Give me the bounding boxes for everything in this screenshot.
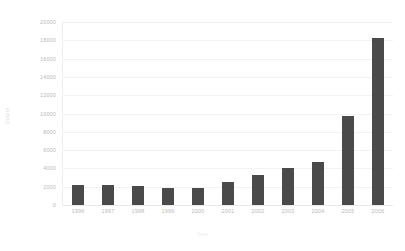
y-axis-tick-label: 10000 (40, 111, 56, 117)
x-axis-tick-label: 1999 (162, 208, 175, 214)
bar (192, 188, 204, 205)
x-axis-tick-label: 2002 (252, 208, 265, 214)
y-axis-tick-label: 2000 (43, 184, 56, 190)
bar-slot (183, 22, 213, 205)
bar-slot (63, 22, 93, 205)
bar (252, 175, 264, 205)
bar (162, 188, 174, 205)
x-axis-tick-label: 2003 (282, 208, 295, 214)
y-axis-tick-label: 6000 (43, 147, 56, 153)
y-axis-tick-label: 8000 (43, 129, 56, 135)
gridline (63, 205, 393, 206)
bar (282, 168, 294, 205)
y-axis-tick-label: 20000 (40, 19, 56, 25)
bar (312, 162, 324, 205)
y-axis-tick-label: 4000 (43, 165, 56, 171)
bar-slot (363, 22, 393, 205)
bar (372, 38, 384, 205)
y-axis-tick-label: 14000 (40, 74, 56, 80)
y-axis-title-text: Output (4, 108, 10, 125)
bar-slot (333, 22, 363, 205)
bar (222, 182, 234, 205)
x-axis-tick-label: 1997 (102, 208, 115, 214)
x-axis-tick-label: 1998 (132, 208, 145, 214)
x-axis-tick-label: 2001 (222, 208, 235, 214)
bar (342, 116, 354, 205)
plot-area (63, 22, 393, 205)
bar (72, 185, 84, 205)
bar-chart: Output 020004000600080001000012000140001… (0, 0, 405, 251)
y-axis-tick-labels: 0200040006000800010000120001400016000180… (18, 22, 60, 205)
bar-slot (213, 22, 243, 205)
y-axis-tick-label: 16000 (40, 56, 56, 62)
y-axis-tick-label: 18000 (40, 37, 56, 43)
x-axis-tick-label: 2006 (372, 208, 385, 214)
bar-slot (153, 22, 183, 205)
bar-slot (93, 22, 123, 205)
y-axis-tick-label: 0 (53, 202, 56, 208)
bar-series (63, 22, 393, 205)
bar-slot (303, 22, 333, 205)
bar (102, 185, 114, 205)
bar (132, 186, 144, 205)
x-axis-tick-labels: 1996199719981999200020012002200320042005… (63, 208, 393, 222)
y-axis-title: Output (0, 96, 14, 136)
bar-slot (243, 22, 273, 205)
x-axis-tick-label: 1996 (72, 208, 85, 214)
y-axis-tick-label: 12000 (40, 92, 56, 98)
x-axis-tick-label: 2000 (192, 208, 205, 214)
x-axis-tick-label: 2004 (312, 208, 325, 214)
bar-slot (273, 22, 303, 205)
x-axis-title: Year (0, 231, 405, 237)
bar-slot (123, 22, 153, 205)
x-axis-tick-label: 2005 (342, 208, 355, 214)
